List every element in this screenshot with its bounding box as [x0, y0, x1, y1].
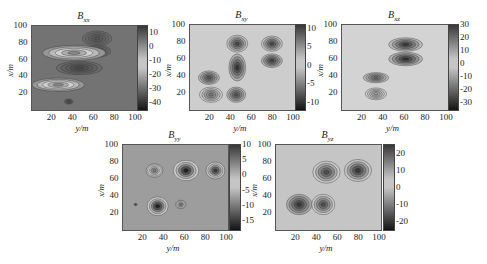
colorbar-tick-label: 10 — [396, 166, 405, 175]
x-axis-label: y/m — [76, 123, 89, 133]
y-tick-label: 60 — [263, 174, 272, 183]
colorbar — [383, 144, 395, 231]
colorbar — [137, 25, 148, 111]
colorbar-tick-label: 20 — [460, 33, 469, 42]
x-tick-label: 80 — [201, 233, 210, 242]
y-tick-label: 60 — [329, 54, 338, 63]
colorbar-tick-label: 20 — [396, 149, 405, 158]
colorbar-tick-label: -10 — [307, 98, 319, 107]
y-tick-label: 20 — [177, 88, 186, 97]
colorbar-tick-label: -20 — [396, 217, 408, 226]
panel-title: Byz — [308, 129, 348, 143]
y-tick-label: 60 — [19, 55, 28, 64]
colorbar-tick-label: 30 — [460, 20, 469, 29]
colorbar-tick-label: -20 — [460, 85, 472, 94]
colorbar-tick-label: -30 — [149, 84, 161, 93]
y-tick-label: 20 — [19, 88, 28, 97]
y-axis-label: x/m — [5, 64, 15, 77]
colorbar-tick-label: 10 — [149, 28, 158, 37]
x-tick-label: 60 — [180, 233, 189, 242]
x-tick-label: 20 — [205, 113, 214, 122]
x-tick-label: 80 — [268, 113, 277, 122]
colorbar-tick-label: 5 — [307, 42, 312, 51]
panel-title: Bxz — [374, 9, 414, 23]
colorbar-tick-label: 0 — [242, 170, 247, 179]
y-axis-label: x/m — [249, 184, 259, 197]
x-tick-label: 60 — [333, 233, 342, 242]
colorbar-tick-label: -10 — [460, 72, 472, 81]
colorbar-tick-label: -10 — [242, 201, 254, 210]
x-tick-label: 60 — [247, 113, 256, 122]
y-tick-label: 80 — [177, 37, 186, 46]
colorbar-tick-label: 5 — [242, 155, 247, 164]
x-tick-label: 40 — [226, 113, 235, 122]
colorbar-tick-label: 10 — [460, 46, 469, 55]
x-tick-label: 80 — [110, 113, 119, 122]
colorbar — [229, 144, 241, 231]
heatmap-plot — [122, 144, 229, 231]
panel-title: Bxy — [222, 9, 262, 23]
y-tick-label: 60 — [177, 54, 186, 63]
heatmap-plot — [189, 24, 296, 111]
x-tick-label: 40 — [159, 233, 168, 242]
colorbar-tick-label: -10 — [396, 200, 408, 209]
y-tick-label: 20 — [329, 88, 338, 97]
colorbar-tick-label: -10 — [149, 56, 161, 65]
x-tick-label: 60 — [89, 113, 98, 122]
colorbar — [448, 24, 459, 111]
x-tick-label: 40 — [312, 233, 321, 242]
x-tick-label: 40 — [68, 113, 77, 122]
colorbar-tick-label: 0 — [149, 42, 154, 51]
y-tick-label: 100 — [104, 140, 118, 149]
y-tick-label: 40 — [19, 71, 28, 80]
x-tick-label: 20 — [138, 233, 147, 242]
colorbar-tick-label: 10 — [307, 24, 316, 33]
colorbar-tick-label: -15 — [242, 216, 254, 225]
x-tick-label: 20 — [291, 233, 300, 242]
y-tick-label: 80 — [263, 157, 272, 166]
heatmap-plot — [31, 25, 138, 111]
colorbar-tick-label: -20 — [149, 70, 161, 79]
y-tick-label: 100 — [171, 20, 185, 29]
heatmap-plot — [341, 24, 449, 111]
y-tick-label: 60 — [110, 174, 119, 183]
x-axis-label: y/m — [234, 123, 247, 133]
x-tick-label: 100 — [372, 233, 386, 242]
y-axis-label: x/m — [163, 64, 173, 77]
heatmap-plot — [275, 144, 382, 231]
y-tick-label: 80 — [329, 37, 338, 46]
y-tick-label: 40 — [110, 191, 119, 200]
colorbar-tick-label: -5 — [307, 79, 315, 88]
colorbar-tick-label: 0 — [307, 61, 312, 70]
panel-title: Byy — [155, 129, 195, 143]
x-tick-label: 80 — [354, 233, 363, 242]
x-axis-label: y/m — [386, 123, 399, 133]
colorbar-tick-label: -30 — [460, 98, 472, 107]
colorbar-tick-label: -40 — [149, 98, 161, 107]
x-tick-label: 100 — [286, 113, 300, 122]
y-tick-label: 40 — [329, 71, 338, 80]
y-tick-label: 20 — [263, 208, 272, 217]
y-axis-label: x/m — [96, 184, 106, 197]
x-tick-label: 100 — [128, 113, 142, 122]
y-tick-label: 100 — [323, 20, 337, 29]
x-tick-label: 40 — [378, 113, 387, 122]
x-axis-label: y/m — [320, 243, 333, 253]
x-tick-label: 20 — [357, 113, 366, 122]
panel-title: Bxx — [64, 10, 104, 24]
colorbar — [295, 24, 306, 111]
y-tick-label: 40 — [263, 191, 272, 200]
x-tick-label: 100 — [219, 233, 233, 242]
y-axis-label: x/m — [315, 64, 325, 77]
x-tick-label: 100 — [439, 113, 453, 122]
y-tick-label: 80 — [19, 38, 28, 47]
y-tick-label: 100 — [257, 140, 271, 149]
x-tick-label: 60 — [399, 113, 408, 122]
y-tick-label: 20 — [110, 208, 119, 217]
y-tick-label: 80 — [110, 157, 119, 166]
y-tick-label: 100 — [13, 21, 27, 30]
x-tick-label: 80 — [421, 113, 430, 122]
colorbar-tick-label: 0 — [396, 183, 401, 192]
y-tick-label: 40 — [177, 71, 186, 80]
x-axis-label: y/m — [167, 243, 180, 253]
